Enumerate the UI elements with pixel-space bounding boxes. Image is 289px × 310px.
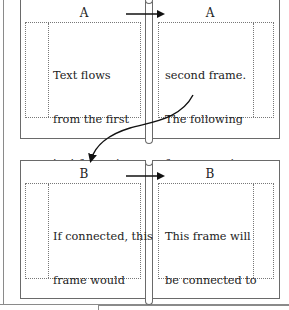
frame-b-left-text: If connected, this frame would connect t… bbox=[53, 201, 153, 310]
flow-label-b-right: B bbox=[200, 167, 220, 181]
text-line: The following bbox=[165, 113, 246, 128]
flow-label-b-left: B bbox=[74, 167, 94, 181]
text-line: second frame. bbox=[165, 69, 246, 84]
text-line: frame would bbox=[53, 274, 153, 289]
flow-label-a-right: A bbox=[200, 6, 220, 20]
text-line: If connected, this bbox=[53, 230, 153, 245]
flow-label-a-left: A bbox=[74, 6, 94, 20]
spread-1-spine bbox=[145, 0, 153, 144]
frame-b-right-text: This frame will be connected to the prev… bbox=[165, 201, 257, 310]
text-line: This frame will bbox=[165, 230, 257, 245]
text-line: Text flows bbox=[53, 69, 129, 84]
outer-border-left bbox=[3, 0, 4, 305]
text-line: be connected to bbox=[165, 274, 257, 289]
column-guide bbox=[253, 23, 254, 117]
text-line: from the first bbox=[53, 113, 129, 128]
column-guide bbox=[48, 23, 49, 117]
column-guide bbox=[48, 184, 49, 278]
